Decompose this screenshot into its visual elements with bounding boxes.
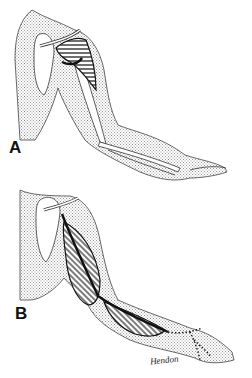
panel-b-arm	[20, 190, 234, 363]
panel-a-arm	[15, 10, 227, 180]
panel-label-a: A	[9, 138, 21, 158]
anatomical-illustration	[0, 0, 252, 378]
panel-label-b: B	[15, 304, 27, 324]
